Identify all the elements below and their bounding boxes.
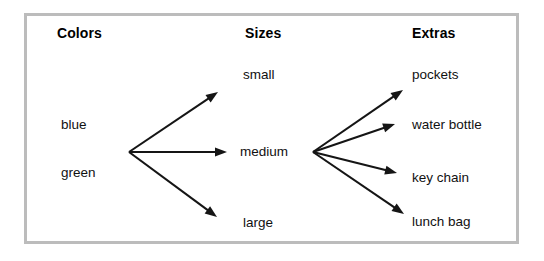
column-heading-sizes: Sizes [245, 26, 281, 40]
node-green: green [61, 166, 96, 180]
column-heading-colors: Colors [57, 26, 102, 40]
diagram-canvas: Colors blue green Sizes small medium lar… [0, 0, 544, 261]
node-key-chain: key chain [412, 171, 469, 185]
node-large: large [243, 216, 273, 230]
node-water-bottle: water bottle [412, 118, 482, 132]
node-medium: medium [240, 145, 288, 159]
node-blue: blue [61, 118, 87, 132]
node-small: small [243, 68, 275, 82]
node-pockets: pockets [412, 68, 459, 82]
node-lunch-bag: lunch bag [412, 215, 471, 229]
column-heading-extras: Extras [412, 26, 455, 40]
